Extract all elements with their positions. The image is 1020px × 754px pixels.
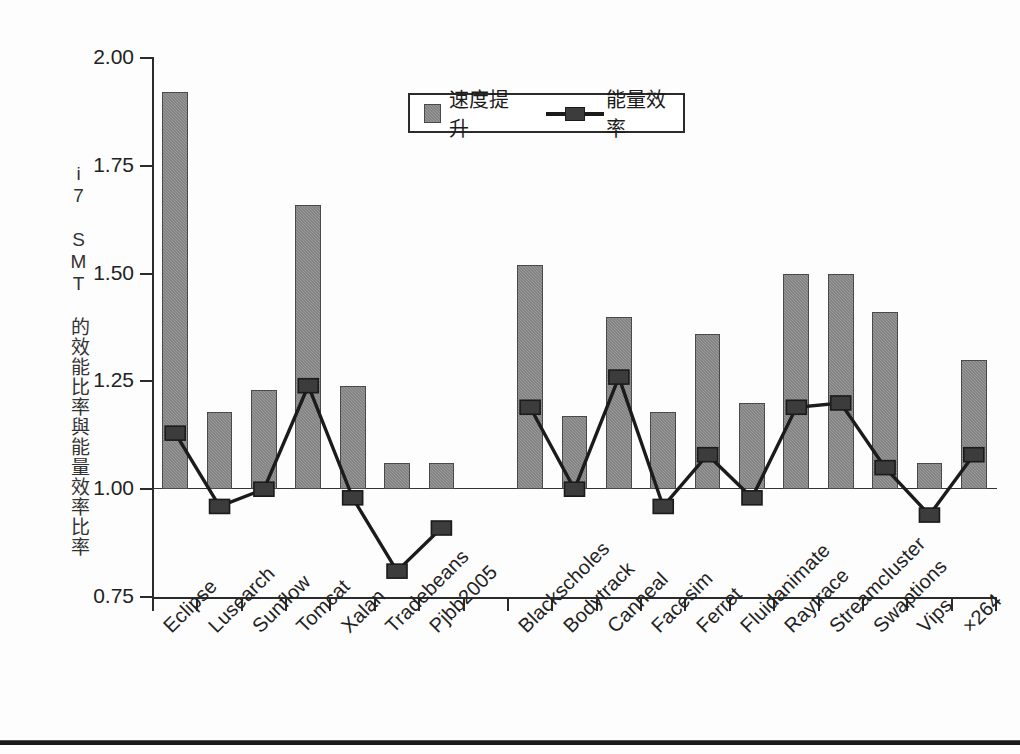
x-axis-tick <box>507 598 509 611</box>
bar-streamcluster <box>828 274 854 490</box>
bar-canneal <box>606 317 632 489</box>
line-marker-facesim <box>653 499 673 513</box>
page-canvas: i7 SMT 的效能比率與能量效率比率 0.751.001.251.501.75… <box>0 0 1020 754</box>
y-axis-tick <box>140 165 153 167</box>
bar-lusearch <box>207 412 233 490</box>
line-marker-tradebeans <box>387 564 407 578</box>
chart-figure: i7 SMT 的效能比率與能量效率比率 0.751.001.251.501.75… <box>0 0 1020 730</box>
page-bottom-rule <box>0 740 1020 745</box>
bar-swatch-icon <box>424 104 441 123</box>
bar-bodytrack <box>562 416 588 489</box>
line-marker-swatch-icon <box>546 104 598 123</box>
chart-legend: 速度提升 能量效率 <box>408 93 685 133</box>
line-marker-lusearch <box>210 499 230 513</box>
bar-swaptions <box>872 312 898 489</box>
y-axis-tick-label: 0.75 <box>44 584 134 608</box>
bar-×264 <box>961 360 987 489</box>
legend-label-speedup: 速度提升 <box>449 84 526 142</box>
bar-vips <box>917 463 943 489</box>
bar-fluidanimate <box>739 403 765 489</box>
legend-label-energy-efficiency: 能量效率 <box>606 84 683 142</box>
y-axis-tick <box>140 380 153 382</box>
y-axis-title: i7 SMT 的效能比率與能量效率比率 <box>48 150 88 570</box>
y-axis-tick-label: 1.25 <box>44 368 134 392</box>
y-axis-tick-label: 1.00 <box>44 476 134 500</box>
y-axis-line <box>152 57 154 598</box>
bar-facesim <box>650 412 676 490</box>
y-axis-tick-label: 1.75 <box>44 153 134 177</box>
y-axis-tick <box>140 273 153 275</box>
line-marker-pjbb2005 <box>431 521 451 535</box>
bar-xalan <box>340 386 366 489</box>
line-marker-fluidanimate <box>742 491 762 505</box>
y-axis-tick-label: 1.50 <box>44 261 134 285</box>
y-axis-tick-label: 2.00 <box>44 45 134 69</box>
line-marker-xalan <box>343 491 363 505</box>
legend-item-speedup: 速度提升 <box>410 84 526 142</box>
bar-sunflow <box>251 390 277 489</box>
x-axis-tick <box>152 598 154 611</box>
bar-tradebeans <box>384 463 410 489</box>
y-axis-tick <box>140 57 153 59</box>
bar-blackscholes <box>517 265 543 489</box>
legend-item-energy-efficiency: 能量效率 <box>526 84 683 142</box>
bar-raytrace <box>783 274 809 490</box>
bar-tomcat <box>295 205 321 490</box>
y-axis-tick <box>140 488 153 490</box>
bar-eclipse <box>162 92 188 489</box>
bar-pjbb2005 <box>429 463 455 489</box>
line-marker-vips <box>919 508 939 522</box>
bar-ferret <box>695 334 721 489</box>
